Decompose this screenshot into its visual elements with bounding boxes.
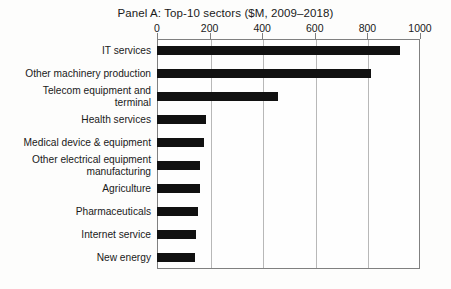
category-label: Health services [0, 114, 151, 126]
bar [157, 253, 195, 262]
bar [157, 69, 371, 78]
bar [157, 230, 196, 239]
bar [157, 161, 200, 170]
bar [157, 115, 206, 124]
x-axis-tick-labels: 02004006008001000 [0, 0, 451, 39]
bar [157, 46, 400, 55]
category-label: Other electrical equipment manufacturing [0, 154, 151, 177]
bar [157, 207, 198, 216]
bar [157, 138, 204, 147]
bar [157, 92, 278, 101]
category-label: Telecom equipment and terminal [0, 85, 151, 108]
bars-layer [157, 39, 420, 269]
category-label: Agriculture [0, 183, 151, 195]
category-label: IT services [0, 45, 151, 57]
x-tick-mark-1000 [420, 33, 421, 39]
category-label: Medical device & equipment [0, 137, 151, 149]
category-label: New energy [0, 252, 151, 264]
bar-chart: Panel A: Top-10 sectors ($M, 2009–2018) … [0, 0, 451, 289]
category-label: Other machinery production [0, 68, 151, 80]
category-axis-labels: IT servicesOther machinery productionTel… [0, 39, 155, 269]
bar [157, 184, 200, 193]
category-label: Internet service [0, 229, 151, 241]
category-label: Pharmaceuticals [0, 206, 151, 218]
